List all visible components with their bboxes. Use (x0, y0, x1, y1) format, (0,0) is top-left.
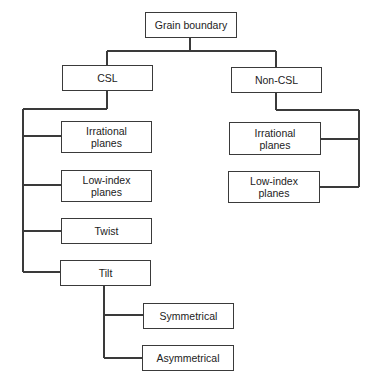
node-label-line1: Irrational (86, 125, 127, 137)
node-csl-low-index-planes: Low-index planes (61, 170, 152, 202)
node-label: CSL (97, 72, 117, 84)
node-tilt-symmetrical: Symmetrical (143, 303, 234, 329)
node-label-line2: planes (91, 186, 122, 198)
node-non-csl: Non-CSL (231, 67, 322, 93)
node-label-line2: planes (91, 137, 122, 149)
node-non-csl-irrational-planes: Irrational planes (229, 122, 321, 155)
node-csl-tilt: Tilt (60, 260, 151, 286)
node-label: Symmetrical (160, 310, 218, 322)
node-label-line2: planes (260, 139, 291, 151)
node-label-line1: Irrational (255, 127, 296, 139)
node-csl: CSL (62, 65, 153, 91)
node-label-line2: planes (259, 187, 290, 199)
node-grain-boundary: Grain boundary (145, 12, 237, 38)
node-label: Twist (95, 225, 119, 237)
node-csl-twist: Twist (61, 218, 152, 244)
node-tilt-asymmetrical: Asymmetrical (142, 345, 234, 371)
node-label: Non-CSL (255, 74, 298, 86)
grain-boundary-classification-diagram: Grain boundary CSL Non-CSL Irrational pl… (0, 0, 374, 387)
node-label: Tilt (99, 267, 113, 279)
node-label: Grain boundary (155, 19, 227, 31)
node-label-line1: Low-index (250, 175, 298, 187)
node-label-line1: Low-index (83, 174, 131, 186)
node-non-csl-low-index-planes: Low-index planes (228, 171, 320, 203)
node-label: Asymmetrical (156, 352, 219, 364)
node-csl-irrational-planes: Irrational planes (61, 121, 152, 153)
